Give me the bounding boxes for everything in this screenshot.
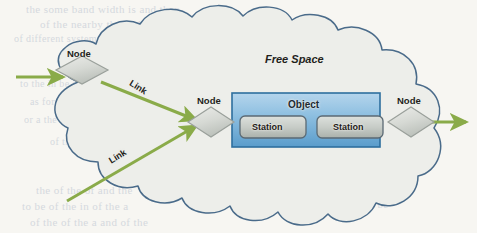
station-label-2: Station [333, 122, 364, 132]
network-diagram [0, 0, 477, 233]
node-label-left: Node [67, 48, 91, 59]
node-label-right: Node [397, 95, 421, 106]
free-space-label: Free Space [265, 53, 324, 65]
node-label-mid: Node [197, 95, 221, 106]
object-label: Object [288, 99, 319, 110]
station-label-1: Station [252, 122, 283, 132]
scanned-page: the some band width is and thenof the ne… [0, 0, 477, 233]
